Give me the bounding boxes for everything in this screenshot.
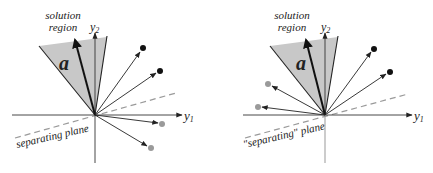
vector-a-label: a	[296, 52, 306, 74]
gray-sample-point	[255, 104, 261, 110]
gray-sample-point	[265, 81, 271, 87]
solution-label-line2: region	[49, 21, 78, 33]
solution-label-line1: solution	[274, 9, 310, 21]
gray-sample-point	[159, 121, 165, 127]
diagram-canvas: solution region a y2 y1 separating plane…	[0, 0, 433, 173]
black-sample-point	[157, 68, 163, 74]
black-sample-point	[140, 45, 146, 51]
right-panel: solution region a y2 y1 "separating" pla…	[242, 9, 424, 163]
solution-label-line1: solution	[45, 9, 81, 21]
y1-axis-label: y1	[182, 108, 194, 124]
black-sample-point	[371, 46, 377, 52]
separating-plane-label: separating plane	[15, 122, 90, 150]
y1-axis-label: y1	[412, 108, 424, 124]
separating-plane-label: "separating" plane	[242, 119, 326, 149]
vector-a-label: a	[59, 52, 69, 74]
solution-label-line2: region	[278, 21, 307, 33]
gray-sample-point	[148, 145, 154, 151]
y2-axis-label: y2	[320, 20, 330, 35]
black-sample-point	[387, 69, 393, 75]
y2-axis-label: y2	[89, 20, 99, 35]
left-panel: solution region a y2 y1 separating plane	[12, 9, 194, 163]
